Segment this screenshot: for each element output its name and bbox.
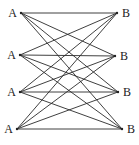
edge-A1-B3: [21, 13, 118, 92]
node-A4: [16, 128, 18, 130]
node-label-A2: A: [7, 48, 16, 62]
node-B3: [117, 91, 119, 93]
bipartite-graph: AAAABBBB: [0, 0, 139, 145]
edges-group: [17, 13, 122, 129]
node-label-A4: A: [4, 122, 13, 136]
edge-A3-B2: [20, 56, 115, 92]
node-label-A1: A: [8, 6, 17, 20]
node-label-B4: B: [127, 122, 135, 136]
nodes-group: AAAABBBB: [4, 6, 135, 136]
edge-A4-B3: [17, 92, 118, 129]
node-label-A3: A: [7, 85, 16, 99]
edge-A1-B4: [21, 13, 122, 129]
edge-A4-B1: [17, 13, 117, 129]
edge-A4-B2: [17, 56, 115, 129]
node-label-B2: B: [120, 49, 128, 63]
node-label-B1: B: [122, 6, 130, 20]
node-B2: [114, 55, 116, 57]
edge-A3-B1: [20, 13, 117, 92]
node-B1: [116, 12, 118, 14]
node-B4: [121, 128, 123, 130]
node-A3: [19, 91, 21, 93]
node-label-B3: B: [123, 85, 131, 99]
node-A1: [20, 12, 22, 14]
edge-A2-B2: [20, 55, 115, 56]
edge-A3-B4: [20, 92, 122, 129]
node-A2: [19, 54, 21, 56]
